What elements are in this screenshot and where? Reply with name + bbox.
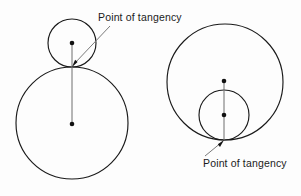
right-diagram-group <box>167 24 283 156</box>
left-large-circle-center-dot <box>70 122 75 127</box>
bottom-point-of-tangency-label: Point of tangency <box>203 157 287 169</box>
right-small-circle-center-dot <box>222 113 227 118</box>
right-leader-arrowhead-icon <box>218 140 224 147</box>
left-label-leader-line <box>74 26 110 64</box>
tangent-circles-figure: Point of tangency Point of tangency <box>0 0 301 196</box>
left-diagram-group <box>16 19 128 179</box>
left-small-circle-center-dot <box>70 41 75 46</box>
top-point-of-tangency-label: Point of tangency <box>98 11 182 23</box>
right-large-circle-center-dot <box>222 79 227 84</box>
